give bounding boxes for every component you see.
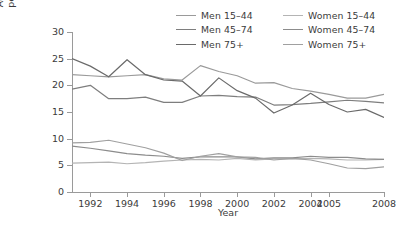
figure-caption (10, 231, 310, 238)
x-axis-tick (274, 192, 275, 197)
y-axis-tick-label: 10 (52, 134, 64, 144)
y-axis-tick-label: 20 (52, 81, 64, 91)
legend-swatch-women-15-44 (283, 15, 303, 16)
series-line (72, 146, 384, 159)
series-lines (72, 32, 384, 192)
legend-label-men-15-44: Men 15–44 (201, 11, 253, 20)
y-axis-tick (67, 139, 72, 140)
legend-item-men-15-44[interactable]: Men 15–44 (176, 8, 283, 22)
y-axis-tick-label: 30 (52, 27, 64, 37)
series-line (72, 158, 384, 163)
series-line (72, 59, 384, 118)
y-axis-tick (67, 85, 72, 86)
series-line (72, 66, 384, 99)
x-axis-tick (329, 192, 330, 197)
series-line (72, 140, 384, 168)
plot-area: 0510152025301992199419961998200020022004… (72, 32, 384, 192)
series-line (72, 85, 384, 105)
x-axis-tick (164, 192, 165, 197)
line-chart-figure: Men 15–44 Women 15–44 Men 45–74 Women 45… (0, 0, 403, 238)
x-axis-tick (127, 192, 128, 197)
y-axis-tick (67, 165, 72, 166)
y-axis-tick-label: 5 (58, 161, 64, 171)
y-axis-tick (67, 112, 72, 113)
x-axis-tick (200, 192, 201, 197)
y-axis-tick-label: 0 (58, 187, 64, 197)
legend-swatch-men-15-44 (176, 15, 196, 16)
x-axis-tick (237, 192, 238, 197)
y-axis-tick-label: 25 (52, 54, 64, 64)
y-axis-label-line2: per 100 000 population (5, 0, 16, 18)
y-axis-label: Age-standardized rates per 100 000 popul… (0, 0, 16, 18)
legend-item-women-15-44[interactable]: Women 15–44 (283, 8, 398, 22)
x-axis-tick (384, 192, 385, 197)
y-axis-tick (67, 32, 72, 33)
x-axis-tick (90, 192, 91, 197)
y-axis-tick (67, 59, 72, 60)
x-axis-label: Year (72, 208, 384, 218)
legend-swatch-men-45-74 (176, 29, 196, 30)
y-axis-tick (67, 192, 72, 193)
y-axis-tick-label: 15 (52, 107, 64, 117)
x-axis-tick (311, 192, 312, 197)
x-axis-line (72, 192, 384, 193)
legend-label-women-15-44: Women 15–44 (308, 11, 375, 20)
legend-swatch-women-45-74 (283, 29, 303, 30)
